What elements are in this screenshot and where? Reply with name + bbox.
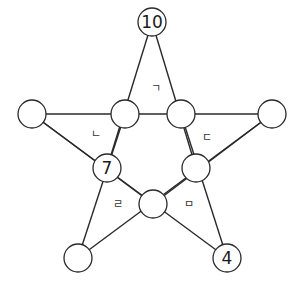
edges (32, 22, 272, 258)
region-label-giyeok: ㄱ (151, 82, 161, 95)
edge (78, 114, 125, 258)
node-bottom-right[interactable]: 4 (213, 244, 241, 272)
node-outer-right[interactable] (258, 100, 286, 128)
node-value: 4 (222, 248, 233, 268)
region-label-digeut: ㄷ (202, 131, 212, 144)
node-top[interactable]: 10 (138, 8, 166, 36)
node-mid-right[interactable] (182, 154, 210, 182)
edge (78, 114, 272, 258)
node-outer-left[interactable] (18, 100, 46, 128)
region-label-mieum: ㅁ (184, 198, 194, 211)
edge (107, 22, 152, 168)
node-bottom-center[interactable] (139, 190, 167, 218)
node-bottom-left[interactable] (64, 244, 92, 272)
edge (152, 22, 196, 168)
node-value: 7 (102, 158, 113, 178)
edge (32, 114, 227, 258)
node-inner-left[interactable] (111, 100, 139, 128)
node-mid-left[interactable]: 7 (93, 154, 121, 182)
region-label-rieul: ㄹ (113, 198, 123, 211)
star-diagram: ㄱ ㄴ ㄷ ㄹ ㅁ 10 7 (0, 0, 303, 292)
node-value: 10 (141, 12, 163, 32)
node-inner-right[interactable] (167, 100, 195, 128)
nodes: 10 7 (18, 8, 286, 272)
region-label-nieun: ㄴ (91, 128, 101, 141)
